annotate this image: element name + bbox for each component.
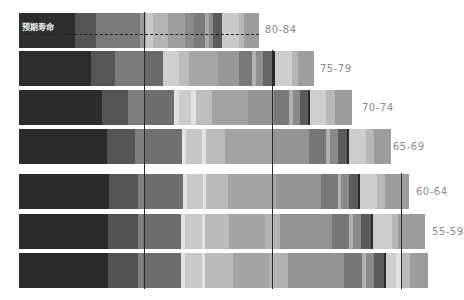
- bar-segment: [206, 174, 228, 209]
- bar-segment: [186, 129, 202, 164]
- bar-segment: [163, 51, 179, 86]
- bar-segment: [349, 174, 358, 209]
- bar-segment: [143, 253, 181, 288]
- age-group-label: 75-79: [320, 63, 352, 74]
- marker-line: [144, 12, 145, 289]
- bar-segment: [248, 90, 274, 125]
- bar-segment: [374, 129, 391, 164]
- bar-segment: [374, 253, 384, 288]
- bar-segment: [206, 129, 225, 164]
- bar-segment: [288, 253, 344, 288]
- bar-segment: [185, 214, 202, 249]
- bar-segment: [361, 214, 371, 249]
- bar-segment: [107, 129, 135, 164]
- bar-segment: [293, 90, 300, 125]
- bar-segment: [75, 13, 96, 48]
- bar-segment: [212, 90, 248, 125]
- bar-segment: [309, 129, 326, 164]
- bar-segment: [144, 174, 183, 209]
- bar-segment: [102, 90, 128, 125]
- bar-70-74: [19, 90, 352, 125]
- bar-segment: [153, 13, 168, 48]
- bar-segment: [377, 174, 385, 209]
- bar-segment: [366, 253, 374, 288]
- bar-segment: [179, 51, 189, 86]
- bar-segment: [128, 90, 144, 125]
- bar-75-79: [19, 51, 314, 86]
- bar-segment: [96, 13, 140, 48]
- bar-segment: [144, 90, 174, 125]
- marker-line: [401, 173, 402, 289]
- bar-segment: [272, 129, 309, 164]
- marker-line: [272, 50, 273, 289]
- bar-segment: [205, 214, 229, 249]
- bar-segment: [385, 174, 409, 209]
- bar-segment: [185, 253, 202, 288]
- bar-segment: [330, 129, 338, 164]
- bar-segment: [189, 51, 218, 86]
- bar-segment: [108, 214, 138, 249]
- bar-segment: [239, 51, 252, 86]
- bar-80-84: [19, 13, 259, 48]
- bar-segment: [228, 174, 276, 209]
- bar-segment: [310, 90, 326, 125]
- bar-segment: [145, 51, 163, 86]
- bar-segment: [143, 214, 181, 249]
- bar-segment: [218, 51, 239, 86]
- bar-segment: [256, 51, 263, 86]
- bar-segment: [373, 214, 392, 249]
- bar-segment: [341, 174, 349, 209]
- bar-segment: [276, 174, 321, 209]
- bar-segment: [360, 174, 377, 209]
- bar-segment: [410, 253, 428, 288]
- bar-segment: [185, 13, 194, 48]
- bar-segment: [274, 90, 289, 125]
- life-expectancy-dotted-line: [19, 34, 259, 35]
- bar-segment: [233, 253, 269, 288]
- bar-segment: [222, 13, 239, 48]
- bar-segment: [398, 214, 425, 249]
- bar-segment: [263, 51, 272, 86]
- bar-segment: [168, 13, 185, 48]
- bar-65-69: [19, 129, 391, 164]
- bar-segment: [338, 129, 347, 164]
- bar-segment: [109, 174, 138, 209]
- age-group-label: 65-69: [393, 141, 425, 152]
- bar-segment: [353, 214, 361, 249]
- bar-segment: [19, 51, 91, 86]
- bar-segment: [187, 174, 203, 209]
- bar-segment: [300, 90, 308, 125]
- bar-segment: [344, 253, 362, 288]
- bar-segment: [115, 51, 145, 86]
- bar-segment: [386, 253, 396, 288]
- bar-segment: [19, 174, 109, 209]
- bar-segment: [19, 214, 108, 249]
- bar-segment: [179, 90, 191, 125]
- bar-segment: [19, 129, 107, 164]
- bar-segment: [146, 13, 153, 48]
- bar-segment: [326, 90, 335, 125]
- bar-segment: [402, 253, 410, 288]
- age-group-label: 60-64: [416, 186, 448, 197]
- bar-segment: [196, 90, 212, 125]
- age-group-label: 80-84: [265, 24, 297, 35]
- bar-row-6: [19, 253, 428, 288]
- bar-segment: [225, 129, 272, 164]
- bar-segment: [298, 51, 314, 86]
- bar-segment: [205, 253, 233, 288]
- age-group-label: 70-74: [362, 102, 394, 113]
- bar-segment: [91, 51, 115, 86]
- bar-segment: [332, 214, 349, 249]
- bar-segment: [145, 129, 182, 164]
- bar-segment: [229, 214, 265, 249]
- bar-segment: [366, 129, 374, 164]
- bar-segment: [194, 13, 205, 48]
- bar-segment: [275, 51, 292, 86]
- bar-segment: [244, 13, 259, 48]
- bar-segment: [19, 253, 108, 288]
- bar-segment: [349, 129, 366, 164]
- bar-segment: [335, 90, 352, 125]
- bar-segment: [19, 90, 102, 125]
- bar-55-59: [19, 214, 425, 249]
